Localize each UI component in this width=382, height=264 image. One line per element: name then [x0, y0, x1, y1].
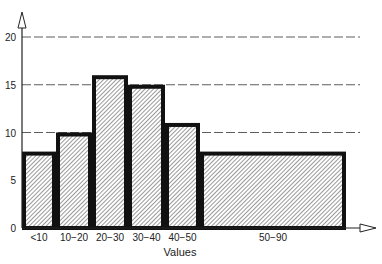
y-tick-label: 20 [5, 32, 17, 43]
x-tick-label: 40−50 [168, 232, 197, 243]
x-axis-label: Values [164, 246, 197, 258]
y-tick-labels: 05101520 [5, 32, 17, 234]
histogram-bar [58, 135, 90, 229]
x-tick-label: 10−20 [60, 232, 89, 243]
x-tick-label: 20−30 [96, 232, 125, 243]
y-tick-label: 15 [5, 80, 17, 91]
y-tick-label: 10 [5, 128, 17, 139]
x-tick-label: 30−40 [132, 232, 161, 243]
x-tick-label: <10 [31, 232, 48, 243]
y-tick-label: 0 [10, 223, 16, 234]
y-tick-label: 5 [10, 175, 16, 186]
bars [24, 77, 344, 228]
histogram-bar [130, 87, 163, 228]
y-axis-arrow-icon [18, 12, 26, 28]
x-axis-arrow-icon [360, 224, 376, 232]
chart-svg: 05101520 <1010−2020−3030−4040−5050−90 Va… [0, 0, 382, 264]
histogram-bar [94, 77, 126, 228]
histogram-bar [24, 154, 54, 228]
x-tick-label: 50−90 [259, 232, 288, 243]
histogram-chart: 05101520 <1010−2020−3030−4040−5050−90 Va… [0, 0, 382, 264]
x-tick-labels: <1010−2020−3030−4040−5050−90 [31, 232, 288, 243]
histogram-bar [167, 125, 198, 228]
histogram-bar [202, 154, 344, 228]
